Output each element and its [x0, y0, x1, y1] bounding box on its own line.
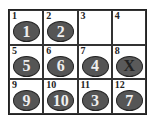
board-cell-9[interactable]: 99: [9, 79, 43, 114]
cell-index-label: 8: [115, 46, 120, 56]
board-cell-1[interactable]: 11: [9, 10, 43, 45]
board-cell-5[interactable]: 55: [9, 45, 43, 80]
cell-index-label: 12: [115, 80, 125, 90]
numbered-tile[interactable]: 9: [13, 90, 40, 111]
numbered-tile[interactable]: 3: [82, 90, 109, 111]
numbered-tile[interactable]: 6: [47, 56, 74, 77]
numbered-tile[interactable]: 4: [82, 56, 109, 77]
board-cell-7[interactable]: 74: [78, 45, 112, 80]
cell-index-label: 7: [81, 46, 86, 56]
numbered-tile[interactable]: 7: [116, 90, 143, 111]
blocker-tile[interactable]: X: [116, 56, 143, 77]
cell-index-label: 5: [12, 46, 17, 56]
cell-index-label: 3: [81, 11, 86, 21]
board-cell-8[interactable]: 8X: [112, 45, 146, 80]
board-cell-10[interactable]: 1010: [43, 79, 77, 114]
board-cell-12[interactable]: 127: [112, 79, 146, 114]
cell-index-label: 1: [12, 11, 17, 21]
puzzle-board: 1122345566748X991010113127: [8, 9, 147, 115]
numbered-tile[interactable]: 10: [47, 90, 74, 111]
numbered-tile[interactable]: 2: [47, 21, 74, 42]
numbered-tile[interactable]: 1: [13, 21, 40, 42]
board-cell-4[interactable]: 4: [112, 10, 146, 45]
cell-index-label: 9: [12, 80, 17, 90]
cell-index-label: 6: [46, 46, 51, 56]
cell-index-label: 2: [46, 11, 51, 21]
cell-index-label: 11: [81, 80, 90, 90]
cell-index-label: 4: [115, 11, 120, 21]
cell-index-label: 10: [46, 80, 56, 90]
board-cell-3[interactable]: 3: [78, 10, 112, 45]
board-cell-2[interactable]: 22: [43, 10, 77, 45]
numbered-tile[interactable]: 5: [13, 56, 40, 77]
board-cell-11[interactable]: 113: [78, 79, 112, 114]
board-cell-6[interactable]: 66: [43, 45, 77, 80]
